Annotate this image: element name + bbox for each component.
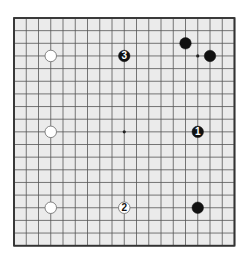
black-stone-move-1[interactable]: 1	[192, 126, 204, 138]
black-stone-icon	[180, 38, 192, 50]
black-stone[interactable]	[192, 202, 204, 214]
white-stone-icon	[45, 202, 57, 214]
star-point-icon	[123, 130, 126, 133]
black-stone-move-3[interactable]: 3	[118, 50, 130, 62]
white-stone-icon	[45, 50, 57, 62]
white-stone-move-2[interactable]: 2	[118, 202, 130, 214]
black-stone[interactable]	[180, 38, 192, 50]
white-stone[interactable]	[45, 126, 57, 138]
black-stone-icon	[192, 202, 204, 214]
go-board[interactable]: 312	[0, 0, 241, 257]
move-number-label: 3	[121, 50, 127, 61]
white-stone[interactable]	[45, 50, 57, 62]
black-stone-icon	[204, 50, 216, 62]
move-number-label: 1	[195, 126, 201, 137]
star-point-icon	[196, 54, 199, 57]
white-stone[interactable]	[45, 202, 57, 214]
white-stone-icon	[45, 126, 57, 138]
move-number-label: 2	[121, 202, 127, 213]
black-stone[interactable]	[204, 50, 216, 62]
